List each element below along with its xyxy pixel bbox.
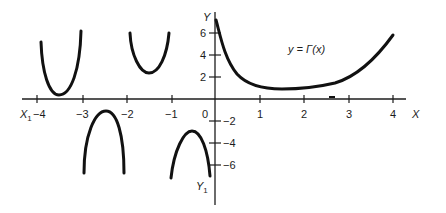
gamma-branch-minus4-to-minus3	[41, 31, 81, 95]
gamma-branch-minus2-to-minus1	[130, 33, 169, 73]
x-tick-label: 1	[257, 108, 263, 120]
gamma-function-chart: −4 −3 −2 −1 0 1 2 3 4 6 4 2 −2 −4 −6 Y X…	[0, 0, 446, 213]
x-neg-axis-label: X1	[19, 108, 32, 123]
x-tick-label: −1	[165, 108, 178, 120]
y-tick-label: 2	[200, 71, 206, 83]
x-tick-label: −2	[121, 108, 134, 120]
x-tick-label: 3	[346, 108, 352, 120]
y-neg-axis-label: Y1	[196, 180, 208, 195]
y-tick-label: 6	[200, 27, 206, 39]
y-tick-label: 4	[200, 49, 206, 61]
x-tick-label: 0	[202, 108, 208, 120]
gamma-branch-minus1-to-0	[171, 131, 210, 178]
gamma-branch-minus3-to-minus2	[84, 111, 124, 173]
x-tick-label: 2	[301, 108, 307, 120]
y-tick-label: −6	[223, 159, 236, 171]
y-axis-label: Y	[203, 11, 211, 23]
function-annotation: y = Γ(x)	[287, 43, 325, 55]
y-tick-label: −2	[223, 115, 236, 127]
x-tick-label: −3	[76, 108, 89, 120]
x-tick-label: −4	[33, 108, 46, 120]
x-axis-label: X	[411, 108, 420, 120]
x-tick-label: 4	[390, 108, 396, 120]
y-tick-label: −4	[223, 137, 236, 149]
